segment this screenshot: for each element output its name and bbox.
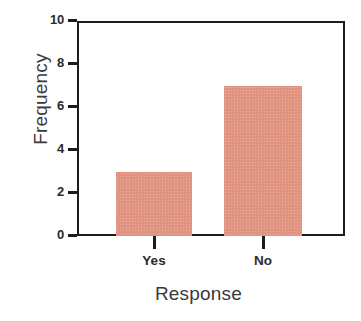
y-axis-tick-6	[68, 105, 77, 108]
y-axis-tick-8	[68, 62, 77, 65]
x-axis-title: Response	[0, 283, 361, 305]
bar-chart-figure: 0 2 4 6 8 10 Frequency Yes No Response	[0, 0, 361, 321]
y-axis-tick-10	[68, 19, 77, 22]
y-axis-tick-label-2: 2	[24, 185, 64, 198]
y-axis-title: Frequency	[30, 14, 52, 184]
x-axis-label-yes: Yes	[109, 253, 199, 268]
x-axis-label-no: No	[218, 253, 308, 268]
bars-layer	[77, 21, 345, 236]
x-axis-tick-no	[262, 236, 265, 249]
x-axis-tick-yes	[153, 236, 156, 249]
y-axis-tick-2	[68, 191, 77, 194]
y-axis-tick-0	[68, 234, 77, 237]
bar-no[interactable]	[224, 86, 302, 237]
bar-yes[interactable]	[116, 172, 192, 237]
y-axis-tick-label-0: 0	[24, 228, 64, 241]
y-axis-tick-4	[68, 148, 77, 151]
